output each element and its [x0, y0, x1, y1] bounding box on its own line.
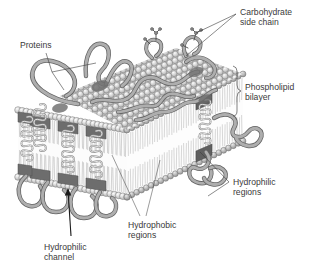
- hydrophilic-regions-label-line2: regions: [233, 187, 261, 197]
- membrane-diagram: Carbohydrate side chain Proteins Phospho…: [0, 0, 317, 269]
- proteins-label: Proteins: [20, 40, 52, 50]
- membrane-diagram-svg: Carbohydrate side chain Proteins Phospho…: [0, 0, 317, 269]
- carbohydrate-label-line2: side chain: [240, 17, 279, 27]
- hydrophilic-regions-label-line1: Hydrophilic: [233, 177, 276, 187]
- hydrophilic-channel-label-line1: Hydrophilic: [44, 242, 87, 252]
- phospholipid-label-line1: Phospholipid: [245, 82, 294, 92]
- carbohydrate-label-line1: Carbohydrate: [240, 7, 292, 17]
- hydrophilic-channel-label-line2: channel: [44, 252, 74, 262]
- hydrophobic-regions-label-line1: Hydrophobic: [128, 220, 177, 230]
- hydrophobic-regions-label-line2: regions: [128, 230, 156, 240]
- phospholipid-label-line2: bilayer: [245, 92, 270, 102]
